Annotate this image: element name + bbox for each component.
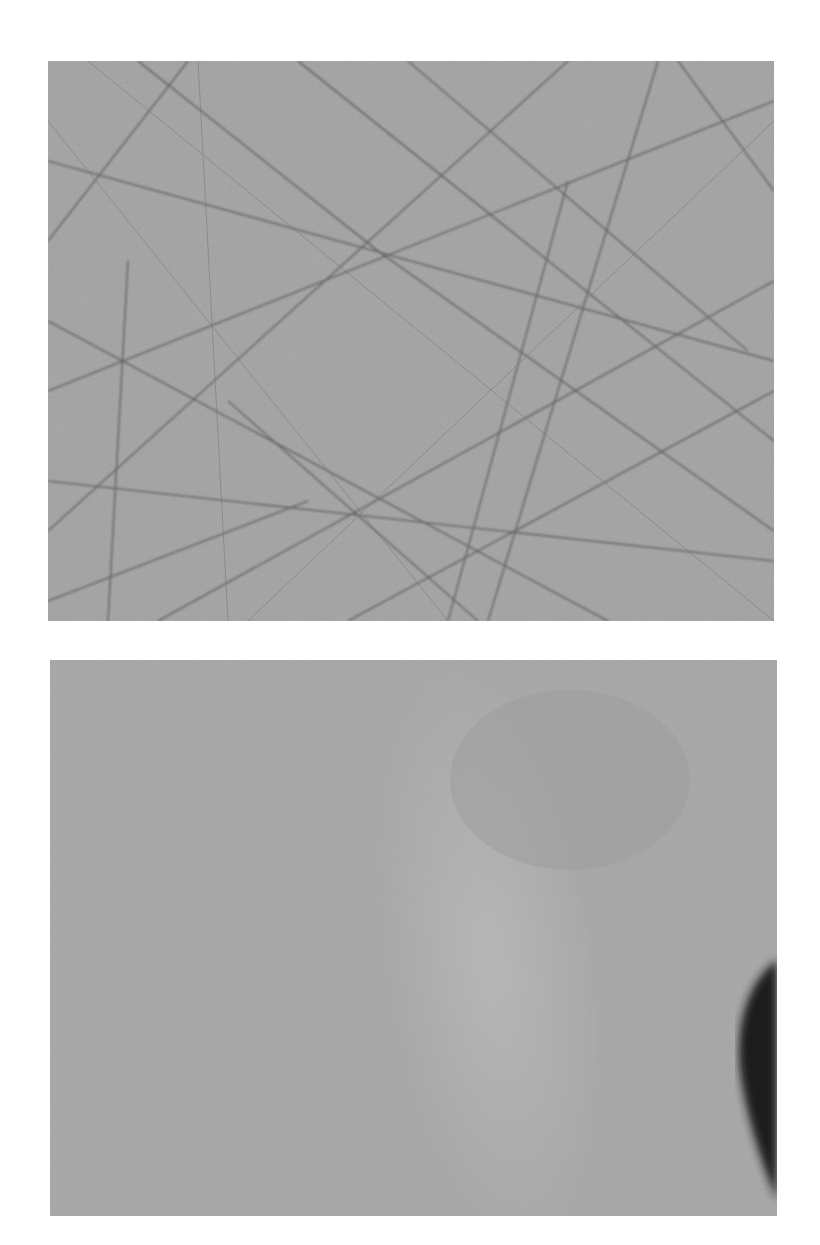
scratch-pattern	[48, 61, 774, 621]
surface-texture	[50, 660, 777, 1216]
micrograph-bottom-smooth-surface	[50, 660, 777, 1216]
micrograph-top-scratched-surface	[48, 61, 774, 621]
